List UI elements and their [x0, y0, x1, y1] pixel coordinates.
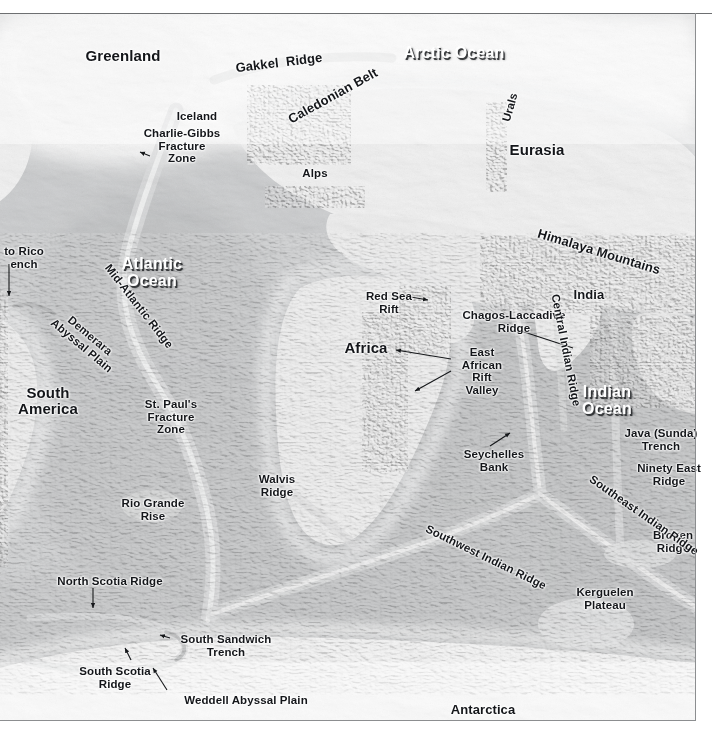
relief-svg — [0, 14, 696, 720]
frame-right-rule — [695, 13, 696, 720]
frame-top-rule — [0, 13, 712, 14]
frame-bottom-rule — [0, 720, 696, 721]
world-ocean-floor-map: Arctic OceanAtlantic OceanIndian OceanGr… — [0, 0, 712, 740]
relief-image — [0, 14, 696, 720]
